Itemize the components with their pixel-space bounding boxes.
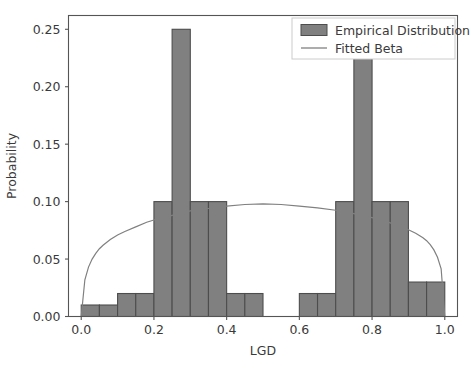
y-tick-label: 0.25 <box>33 22 61 37</box>
histogram-bar <box>408 282 426 316</box>
histogram-bar <box>118 294 136 317</box>
x-tick-label: 1.0 <box>435 322 455 337</box>
legend-swatch-empirical <box>301 25 327 36</box>
histogram-bar <box>81 305 99 316</box>
histogram-bar <box>245 294 263 317</box>
x-axis: 0.00.20.40.60.81.0 <box>71 317 454 337</box>
histogram-bar <box>299 294 317 317</box>
x-tick-label: 0.2 <box>144 322 164 337</box>
y-tick-label: 0.15 <box>33 137 61 152</box>
histogram-bar <box>136 294 154 317</box>
histogram-bar <box>390 202 408 317</box>
legend-label: Empirical Distribution <box>335 23 470 38</box>
histogram-bar <box>190 202 208 317</box>
x-tick-label: 0.0 <box>71 322 91 337</box>
x-axis-label: LGD <box>250 343 276 358</box>
histogram-bar <box>354 58 372 316</box>
x-tick-label: 0.6 <box>289 322 309 337</box>
y-axis-label: Probability <box>4 132 19 199</box>
y-tick-label: 0.00 <box>33 309 61 324</box>
histogram-bar <box>318 294 336 317</box>
x-tick-label: 0.8 <box>362 322 382 337</box>
histogram-bar <box>227 294 245 317</box>
y-axis: 0.000.050.100.150.200.25 <box>33 22 69 324</box>
chart-figure: 0.00.20.40.60.81.0LGD0.000.050.100.150.2… <box>0 0 471 381</box>
y-tick-label: 0.10 <box>33 194 61 209</box>
legend-label: Fitted Beta <box>335 41 403 56</box>
histogram-bar <box>336 202 354 317</box>
legend: Empirical DistributionFitted Beta <box>292 18 470 59</box>
y-tick-label: 0.20 <box>33 79 61 94</box>
histogram-bar <box>172 29 190 316</box>
y-tick-label: 0.05 <box>33 252 61 267</box>
histogram-bar <box>99 305 117 316</box>
histogram-plot: 0.00.20.40.60.81.0LGD0.000.050.100.150.2… <box>0 0 471 381</box>
histogram-bar <box>208 202 226 317</box>
x-tick-label: 0.4 <box>217 322 237 337</box>
